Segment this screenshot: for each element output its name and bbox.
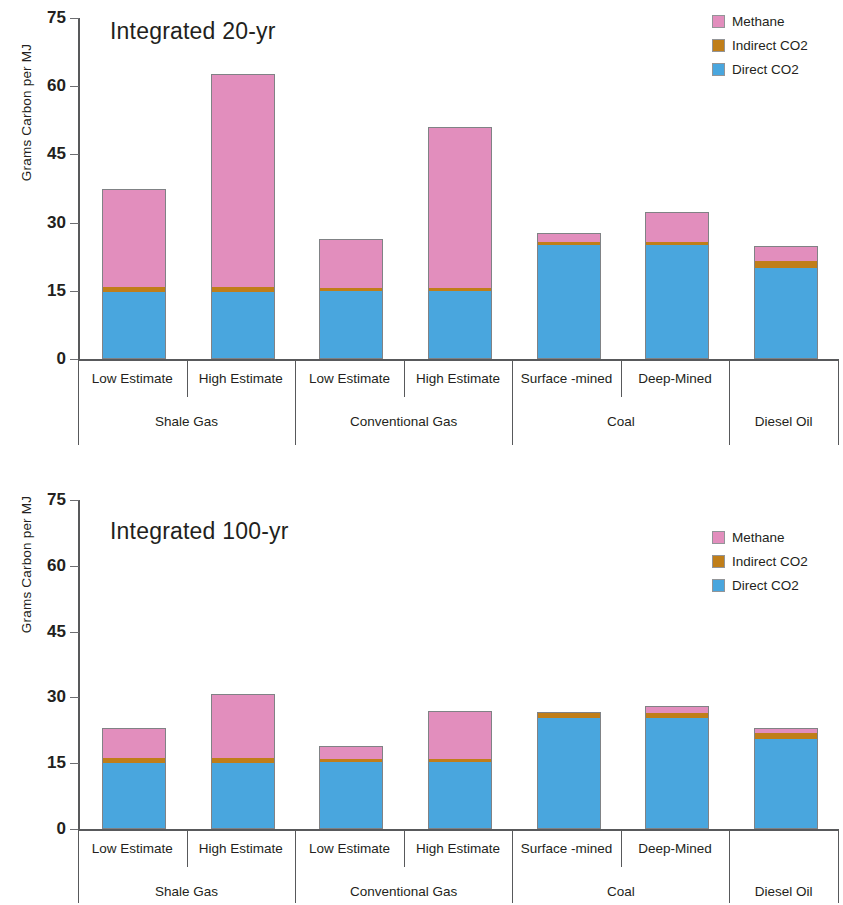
bar-stack xyxy=(319,239,383,359)
bar-segment-direct-co2 xyxy=(429,291,491,358)
category-group-label-text: Coal xyxy=(607,884,635,899)
bar-stack xyxy=(102,728,166,829)
legend-item[interactable]: Indirect CO2 xyxy=(712,38,808,53)
chart-title-20yr: Integrated 20-yr xyxy=(110,18,276,45)
legend-20yr: MethaneIndirect CO2Direct CO2 xyxy=(712,14,808,86)
category-sublabel: High Estimate xyxy=(404,829,513,867)
legend-100yr: MethaneIndirect CO2Direct CO2 xyxy=(712,530,808,602)
y-axis-tick xyxy=(70,86,79,87)
category-sublabel: High Estimate xyxy=(404,359,513,397)
bar-segment-direct-co2 xyxy=(212,763,274,828)
bar-segment-methane xyxy=(646,213,708,241)
bar-segment-methane xyxy=(103,729,165,758)
bar-stack xyxy=(428,711,492,829)
legend-swatch-direct xyxy=(712,63,725,76)
legend-item[interactable]: Methane xyxy=(712,14,808,29)
legend-label: Direct CO2 xyxy=(732,578,799,593)
y-axis-tick xyxy=(70,291,79,292)
bar-stack xyxy=(537,233,601,359)
category-sublabel xyxy=(729,359,838,397)
category-labels-100yr: Low EstimateHigh EstimateLow EstimateHig… xyxy=(78,829,838,905)
y-axis-tick-label: 0 xyxy=(20,349,66,369)
category-sublabel-text: Surface -mined xyxy=(521,841,613,856)
chart-title-100yr: Integrated 100-yr xyxy=(110,518,289,545)
bar-segment-direct-co2 xyxy=(538,245,600,358)
legend-label: Methane xyxy=(732,530,785,545)
category-divider-left xyxy=(78,829,79,903)
category-sublabel: Low Estimate xyxy=(78,829,187,867)
category-sublabel-text: High Estimate xyxy=(416,371,500,386)
y-axis-tick-label: 60 xyxy=(20,556,66,576)
category-sublabel: Surface -mined xyxy=(512,829,621,867)
category-sublabel-text: Low Estimate xyxy=(92,841,173,856)
chart-panel-100yr: Grams Carbon per MJ 01530456075 Low Esti… xyxy=(0,452,843,905)
category-group-label: Shale Gas xyxy=(78,869,295,905)
bar-segment-methane xyxy=(320,747,382,759)
category-sublabel-text: Deep-Mined xyxy=(638,841,712,856)
y-axis-tick-label: 30 xyxy=(20,213,66,233)
y-axis-tick xyxy=(70,632,79,633)
legend-label: Direct CO2 xyxy=(732,62,799,77)
category-sublabel: Low Estimate xyxy=(78,359,187,397)
category-divider-group xyxy=(838,829,839,903)
bar-segment-methane xyxy=(429,128,491,287)
legend-item[interactable]: Direct CO2 xyxy=(712,578,808,593)
category-group-label-text: Shale Gas xyxy=(155,414,218,429)
legend-item[interactable]: Methane xyxy=(712,530,808,545)
category-group-label-text: Conventional Gas xyxy=(350,414,457,429)
bar-stack xyxy=(754,728,818,829)
y-axis-tick xyxy=(70,763,79,764)
category-sublabel-text: Low Estimate xyxy=(92,371,173,386)
y-axis-tick-label: 75 xyxy=(20,8,66,28)
bar-segment-direct-co2 xyxy=(103,292,165,358)
bar-segment-methane xyxy=(538,234,600,242)
category-divider-group xyxy=(512,829,513,903)
category-group-label-text: Diesel Oil xyxy=(755,414,813,429)
y-axis-tick xyxy=(70,223,79,224)
bar-segment-methane xyxy=(212,695,274,758)
category-divider-inner xyxy=(404,359,405,397)
bar-stack xyxy=(319,746,383,829)
y-axis-tick xyxy=(70,697,79,698)
category-group-label: Diesel Oil xyxy=(729,869,838,905)
category-divider-group xyxy=(295,829,296,903)
legend-label: Indirect CO2 xyxy=(732,554,808,569)
y-axis-tick-label: 75 xyxy=(20,490,66,510)
category-sublabel: Low Estimate xyxy=(295,359,404,397)
category-sublabel: High Estimate xyxy=(187,359,296,397)
bar-segment-direct-co2 xyxy=(646,245,708,358)
category-sublabel: Deep-Mined xyxy=(621,359,730,397)
bar-segment-direct-co2 xyxy=(755,268,817,358)
legend-label: Methane xyxy=(732,14,785,29)
category-divider-group xyxy=(295,359,296,445)
bar-segment-methane xyxy=(429,712,491,759)
bar-stack xyxy=(537,712,601,829)
bar-segment-direct-co2 xyxy=(103,763,165,828)
bar-segment-direct-co2 xyxy=(755,739,817,828)
bar-segment-direct-co2 xyxy=(212,292,274,358)
legend-label: Indirect CO2 xyxy=(732,38,808,53)
bar-stack xyxy=(211,74,275,359)
category-group-label: Conventional Gas xyxy=(295,399,512,443)
y-axis-tick-label: 60 xyxy=(20,76,66,96)
bar-stack xyxy=(645,212,709,359)
category-divider-group xyxy=(512,359,513,445)
legend-item[interactable]: Direct CO2 xyxy=(712,62,808,77)
bar-stack xyxy=(102,189,166,359)
category-sublabel: Surface -mined xyxy=(512,359,621,397)
y-axis-tick xyxy=(70,18,79,19)
chart-panel-20yr: Grams Carbon per MJ 01530456075 Low Esti… xyxy=(0,0,843,452)
category-divider-inner xyxy=(621,359,622,397)
y-axis-tick-label: 0 xyxy=(20,819,66,839)
category-sublabel-text: Low Estimate xyxy=(309,841,390,856)
y-axis-tick-label: 45 xyxy=(20,144,66,164)
category-group-label-text: Diesel Oil xyxy=(755,884,813,899)
legend-swatch-indirect xyxy=(712,555,725,568)
category-sublabel-text: Low Estimate xyxy=(309,371,390,386)
legend-item[interactable]: Indirect CO2 xyxy=(712,554,808,569)
legend-swatch-methane xyxy=(712,15,725,28)
y-axis-tick-label: 30 xyxy=(20,687,66,707)
category-divider-left xyxy=(78,359,79,445)
bar-segment-direct-co2 xyxy=(538,718,600,828)
category-sublabel-text: High Estimate xyxy=(416,841,500,856)
